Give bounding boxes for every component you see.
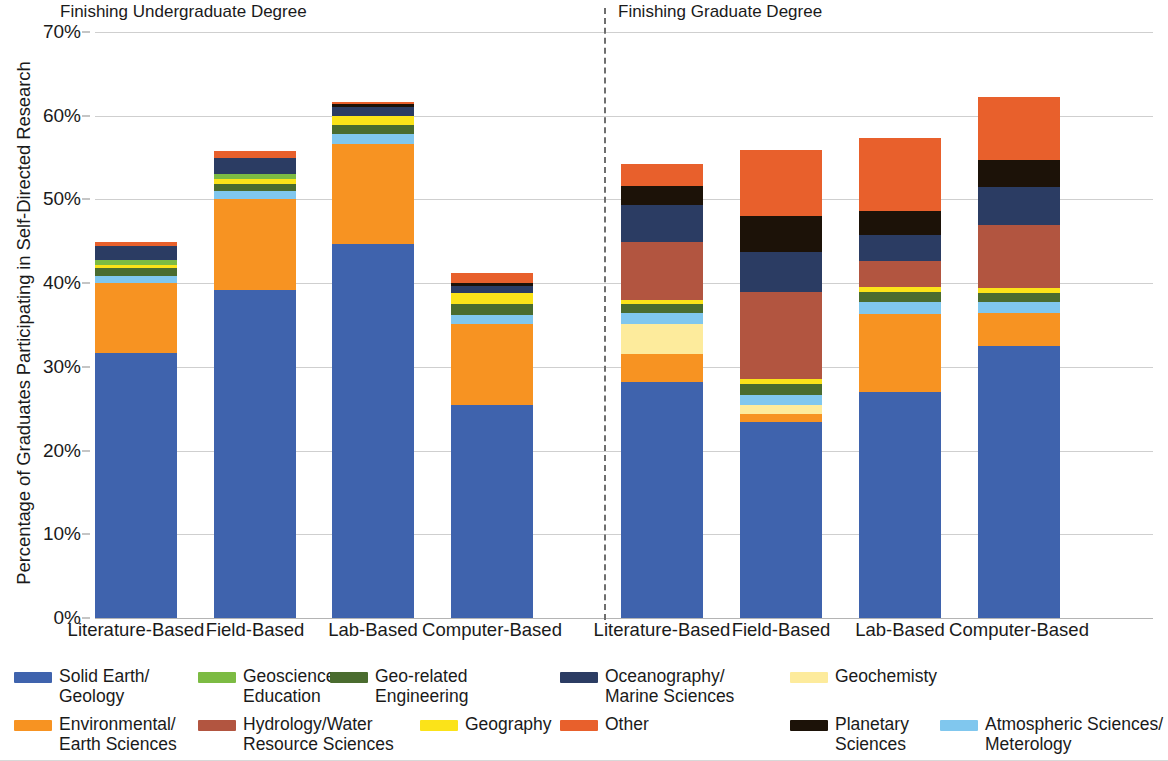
- bar-segment[interactable]: [451, 315, 533, 324]
- bar-segment[interactable]: [740, 405, 822, 413]
- bar-6[interactable]: [859, 138, 941, 618]
- bar-segment[interactable]: [978, 293, 1060, 302]
- bar-segment[interactable]: [859, 314, 941, 392]
- legend-swatch-icon: [420, 720, 458, 731]
- legend-label: Solid Earth/ Geology: [59, 666, 149, 706]
- bar-segment[interactable]: [859, 302, 941, 314]
- bar-segment[interactable]: [451, 293, 533, 304]
- gridline: [95, 32, 1153, 33]
- bar-segment[interactable]: [859, 235, 941, 261]
- bar-segment[interactable]: [740, 395, 822, 406]
- legend-swatch-icon: [790, 672, 828, 683]
- bar-7[interactable]: [978, 97, 1060, 618]
- bar-segment[interactable]: [95, 268, 177, 276]
- legend-swatch-icon: [14, 672, 52, 683]
- legend-swatch-icon: [940, 720, 978, 731]
- bar-segment[interactable]: [451, 405, 533, 618]
- bar-segment[interactable]: [859, 392, 941, 618]
- bar-segment[interactable]: [214, 184, 296, 192]
- y-axis-tick-label: 40%: [43, 272, 81, 294]
- bar-segment[interactable]: [978, 346, 1060, 618]
- bar-segment[interactable]: [451, 286, 533, 294]
- y-axis-tick-label: 20%: [43, 440, 81, 462]
- bar-segment[interactable]: [740, 384, 822, 394]
- bar-segment[interactable]: [214, 290, 296, 618]
- panel-title-undergraduate: Finishing Undergraduate Degree: [60, 2, 307, 22]
- bar-segment[interactable]: [740, 414, 822, 422]
- bar-segment[interactable]: [451, 273, 533, 283]
- bar-segment[interactable]: [332, 134, 414, 144]
- legend-item[interactable]: Oceanography/ Marine Sciences: [560, 666, 734, 706]
- bar-segment[interactable]: [621, 324, 703, 354]
- legend-swatch-icon: [198, 672, 236, 683]
- bar-5[interactable]: [740, 150, 822, 618]
- bar-segment[interactable]: [740, 422, 822, 618]
- bar-4[interactable]: [621, 164, 703, 618]
- legend-item[interactable]: Geography: [420, 714, 552, 734]
- panel-title-graduate: Finishing Graduate Degree: [618, 2, 822, 22]
- legend-item[interactable]: Planetary Sciences: [790, 714, 909, 754]
- bar-2[interactable]: [332, 102, 414, 618]
- bar-segment[interactable]: [621, 205, 703, 243]
- bar-segment[interactable]: [978, 225, 1060, 288]
- bar-segment[interactable]: [214, 191, 296, 199]
- legend-swatch-icon: [330, 672, 368, 683]
- x-axis-labels: Literature-BasedField-BasedLab-BasedComp…: [0, 619, 1168, 653]
- bar-segment[interactable]: [621, 186, 703, 204]
- legend-item[interactable]: Geo-related Engineering: [330, 666, 468, 706]
- bar-segment[interactable]: [95, 283, 177, 353]
- bar-segment[interactable]: [621, 164, 703, 187]
- bar-segment[interactable]: [214, 151, 296, 158]
- legend-item[interactable]: Geochemisty: [790, 666, 937, 686]
- bar-0[interactable]: [95, 242, 177, 618]
- y-axis-tick-mark: [82, 283, 90, 284]
- bar-segment[interactable]: [740, 150, 822, 216]
- legend-label: Geoscience Education: [243, 666, 335, 706]
- bar-segment[interactable]: [621, 313, 703, 324]
- bar-segment[interactable]: [978, 313, 1060, 346]
- x-axis-label: Computer-Based: [422, 619, 562, 641]
- bar-segment[interactable]: [332, 116, 414, 125]
- legend-label: Planetary Sciences: [835, 714, 909, 754]
- bar-segment[interactable]: [95, 276, 177, 283]
- bar-segment[interactable]: [978, 160, 1060, 187]
- bar-segment[interactable]: [451, 324, 533, 405]
- bar-segment[interactable]: [859, 261, 941, 288]
- bar-segment[interactable]: [95, 353, 177, 618]
- bar-segment[interactable]: [978, 97, 1060, 161]
- bar-segment[interactable]: [214, 158, 296, 174]
- bar-segment[interactable]: [859, 292, 941, 302]
- bar-segment[interactable]: [859, 138, 941, 212]
- bar-3[interactable]: [451, 273, 533, 618]
- legend-swatch-icon: [790, 720, 828, 731]
- bar-segment[interactable]: [451, 304, 533, 315]
- x-axis-label: Field-Based: [206, 619, 305, 641]
- bar-segment[interactable]: [621, 382, 703, 618]
- legend-item[interactable]: Hydrology/Water Resource Sciences: [198, 714, 394, 754]
- bar-segment[interactable]: [978, 302, 1060, 313]
- bar-1[interactable]: [214, 151, 296, 618]
- bar-segment[interactable]: [332, 107, 414, 116]
- bar-segment[interactable]: [740, 216, 822, 252]
- stacked-bar-chart: Percentage of Graduates Participating in…: [0, 0, 1168, 652]
- bar-segment[interactable]: [621, 242, 703, 300]
- legend-item[interactable]: Other: [560, 714, 649, 734]
- y-axis-tick-label: 10%: [43, 523, 81, 545]
- bar-segment[interactable]: [621, 304, 703, 313]
- legend-item[interactable]: Solid Earth/ Geology: [14, 666, 149, 706]
- legend-item[interactable]: Environmental/ Earth Sciences: [14, 714, 177, 754]
- bar-segment[interactable]: [214, 199, 296, 290]
- bar-segment[interactable]: [978, 187, 1060, 226]
- bar-segment[interactable]: [859, 211, 941, 234]
- bar-segment[interactable]: [740, 292, 822, 380]
- bar-segment[interactable]: [332, 144, 414, 244]
- bar-segment[interactable]: [621, 354, 703, 382]
- bar-segment[interactable]: [740, 252, 822, 291]
- bar-segment[interactable]: [332, 125, 414, 134]
- legend-item[interactable]: Geoscience Education: [198, 666, 335, 706]
- bar-segment[interactable]: [332, 244, 414, 618]
- y-axis-ticks: 0%10%20%30%40%50%60%70%: [0, 32, 95, 618]
- bar-segment[interactable]: [95, 246, 177, 259]
- legend-item[interactable]: Atmospheric Sciences/ Meterology: [940, 714, 1163, 754]
- x-axis-label: Computer-Based: [949, 619, 1089, 641]
